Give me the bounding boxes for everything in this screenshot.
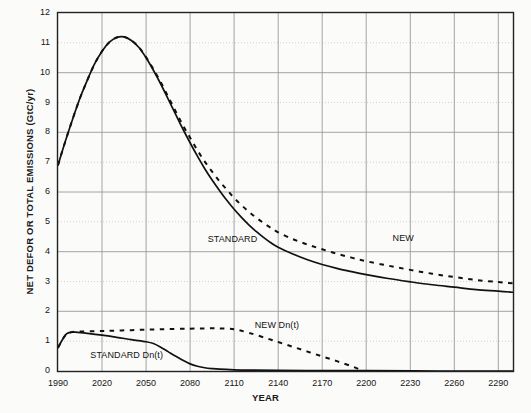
y-tick-label: 1 <box>28 335 50 345</box>
y-tick-label: 9 <box>28 97 50 107</box>
chart-figure: NET DEFOR OR TOTAL EMISSIONS (GtC/yr) YE… <box>0 0 531 413</box>
chart-plot-area <box>0 0 531 413</box>
y-tick-label: 4 <box>28 246 50 256</box>
y-tick-label: 8 <box>28 126 50 136</box>
x-tick-label: 2140 <box>257 378 299 388</box>
y-tick-label: 5 <box>28 216 50 226</box>
x-tick-label: 2200 <box>345 378 387 388</box>
x-tick-label: 2290 <box>477 378 519 388</box>
y-tick-label: 0 <box>28 365 50 375</box>
series-annotation-new: NEW <box>393 233 414 243</box>
y-tick-label: 7 <box>28 156 50 166</box>
series-annotation-standard: STANDARD <box>208 234 258 244</box>
x-tick-label: 2080 <box>169 378 211 388</box>
series-line-new <box>58 37 513 284</box>
x-tick-label: 2110 <box>213 378 255 388</box>
y-tick-label: 12 <box>28 7 50 17</box>
x-tick-label: 2170 <box>301 378 343 388</box>
grid-layer <box>58 13 513 371</box>
x-axis-title: YEAR <box>0 392 531 403</box>
series-annotation-new-dn-t: NEW Dn(t) <box>255 320 299 330</box>
x-tick-label: 2020 <box>81 378 123 388</box>
x-tick-label: 2050 <box>125 378 167 388</box>
y-tick-label: 2 <box>28 305 50 315</box>
x-tick-label: 1990 <box>37 378 79 388</box>
x-tick-label: 2230 <box>389 378 431 388</box>
y-tick-label: 6 <box>28 186 50 196</box>
series-annotation-standard-dn-t: STANDARD Dn(t) <box>90 350 163 360</box>
y-tick-label: 11 <box>28 37 50 47</box>
x-tick-label: 2260 <box>433 378 475 388</box>
y-tick-label: 3 <box>28 276 50 286</box>
series-line-standard <box>58 37 513 293</box>
y-tick-label: 10 <box>28 67 50 77</box>
